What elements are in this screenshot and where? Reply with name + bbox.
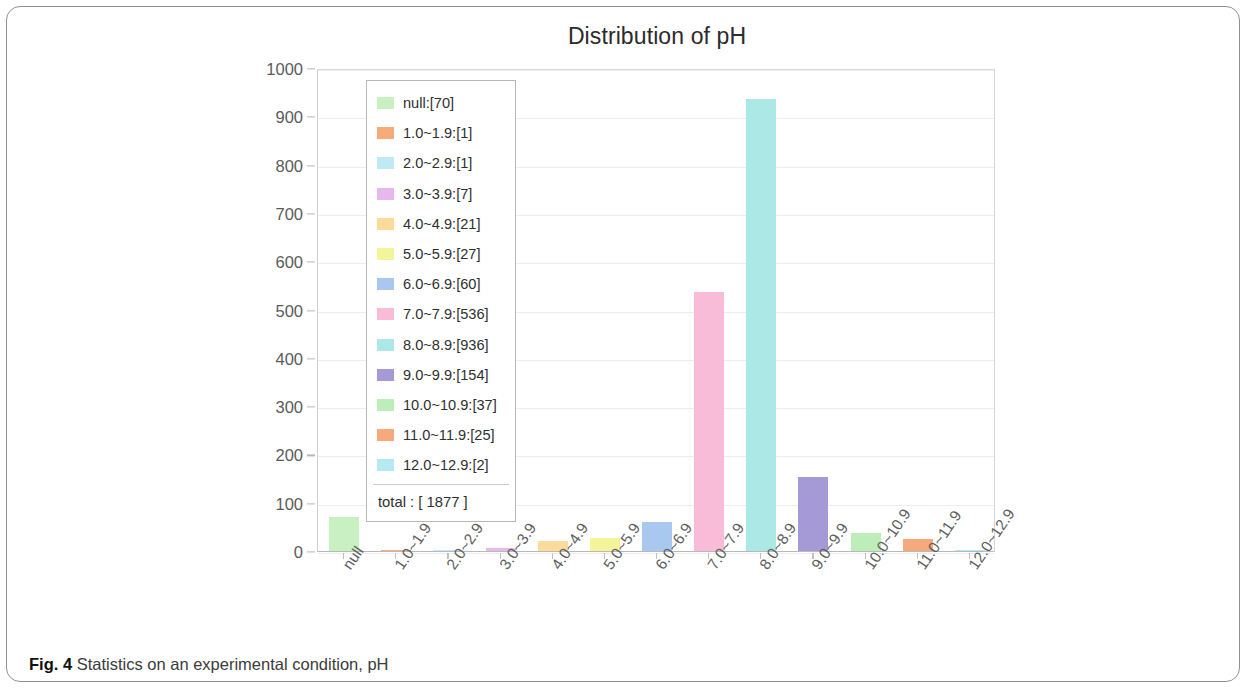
legend-color-swatch: [377, 429, 394, 441]
y-axis-tick-label: 800: [243, 156, 303, 175]
bar: [746, 99, 776, 551]
y-axis-tick-label: 200: [243, 446, 303, 465]
legend-item-label: 6.0~6.9:[60]: [403, 276, 481, 292]
legend-item-label: 2.0~2.9:[1]: [403, 155, 472, 171]
legend-item-label: 7.0~7.9:[536]: [403, 306, 489, 322]
legend-item-label: 5.0~5.9:[27]: [403, 246, 481, 262]
legend-color-swatch: [377, 278, 394, 290]
legend-item-label: null:[70]: [403, 95, 454, 111]
legend-item-label: 1.0~1.9:[1]: [403, 125, 472, 141]
y-axis-tick-label: 600: [243, 253, 303, 272]
bar: [694, 292, 724, 551]
y-axis-tick-mark: [307, 407, 315, 408]
legend-item: null:[70]: [367, 88, 515, 118]
legend-item-label: 10.0~10.9:[37]: [403, 397, 497, 413]
legend-item: 9.0~9.9:[154]: [367, 360, 515, 390]
legend-item: 7.0~7.9:[536]: [367, 299, 515, 329]
figure-caption-text: Statistics on an experimental condition,…: [77, 655, 389, 673]
legend-item: 3.0~3.9:[7]: [367, 179, 515, 209]
y-axis-tick-label: 100: [243, 494, 303, 513]
legend-item: 2.0~2.9:[1]: [367, 148, 515, 178]
figure-caption: Fig. 4 Statistics on an experimental con…: [29, 655, 389, 674]
y-axis-tick-label: 400: [243, 349, 303, 368]
y-axis-tick-mark: [307, 358, 315, 359]
legend-color-swatch: [377, 97, 394, 109]
legend-color-swatch: [377, 188, 394, 200]
legend-rows: null:[70]1.0~1.9:[1]2.0~2.9:[1]3.0~3.9:[…: [367, 88, 515, 480]
legend-item-label: 8.0~8.9:[936]: [403, 337, 489, 353]
y-axis-tick-label: 1000: [243, 60, 303, 79]
legend-item-label: 12.0~12.9:[2]: [403, 457, 489, 473]
legend-color-swatch: [377, 127, 394, 139]
x-axis: null1.0~1.92.0~2.93.0~3.94.0~4.95.0~5.96…: [317, 553, 995, 653]
legend-item-label: 11.0~11.9:[25]: [403, 427, 495, 443]
legend-color-swatch: [377, 459, 394, 471]
legend-item-label: 9.0~9.9:[154]: [403, 367, 489, 383]
y-axis-tick-mark: [307, 310, 315, 311]
legend-color-swatch: [377, 308, 394, 320]
legend-color-swatch: [377, 157, 394, 169]
legend-total: total : [ 1877 ]: [367, 485, 515, 521]
figure-frame: Distribution of pH 010020030040050060070…: [6, 6, 1240, 682]
y-axis-tick-mark: [307, 165, 315, 166]
legend-item: 1.0~1.9:[1]: [367, 118, 515, 148]
y-axis-tick-mark: [307, 68, 315, 69]
legend-item-label: 4.0~4.9:[21]: [403, 216, 481, 232]
y-axis-tick-label: 300: [243, 398, 303, 417]
y-axis-tick-label: 900: [243, 108, 303, 127]
legend-item-label: 3.0~3.9:[7]: [403, 186, 472, 202]
legend-color-swatch: [377, 399, 394, 411]
chart-legend: null:[70]1.0~1.9:[1]2.0~2.9:[1]3.0~3.9:[…: [366, 80, 516, 522]
y-axis-tick-mark: [307, 503, 315, 504]
legend-item: 6.0~6.9:[60]: [367, 269, 515, 299]
y-axis-tick-label: 0: [243, 543, 303, 562]
chart-title: Distribution of pH: [317, 23, 997, 50]
y-axis-tick-mark: [307, 117, 315, 118]
legend-color-swatch: [377, 218, 394, 230]
y-axis: 01002003004005006007008009001000: [247, 57, 315, 564]
y-axis-tick-label: 500: [243, 301, 303, 320]
legend-color-swatch: [377, 339, 394, 351]
legend-item: 11.0~11.9:[25]: [367, 420, 515, 450]
figure-page: Distribution of pH 010020030040050060070…: [0, 0, 1248, 695]
legend-item: 10.0~10.9:[37]: [367, 390, 515, 420]
legend-item: 5.0~5.9:[27]: [367, 239, 515, 269]
legend-item: 4.0~4.9:[21]: [367, 209, 515, 239]
legend-item: 8.0~8.9:[936]: [367, 330, 515, 360]
legend-item: 12.0~12.9:[2]: [367, 450, 515, 480]
y-axis-tick-mark: [307, 551, 315, 552]
legend-color-swatch: [377, 369, 394, 381]
legend-color-swatch: [377, 248, 394, 260]
y-axis-tick-label: 700: [243, 204, 303, 223]
y-axis-tick-mark: [307, 262, 315, 263]
y-axis-tick-mark: [307, 455, 315, 456]
y-axis-tick-mark: [307, 213, 315, 214]
figure-caption-label: Fig. 4: [29, 655, 72, 673]
